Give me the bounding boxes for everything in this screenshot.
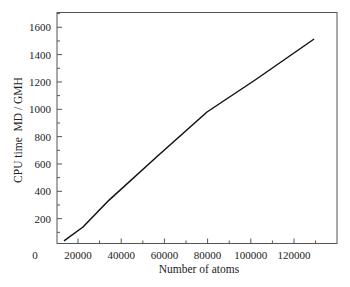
x-axis-tick-labels: 20000400006000080000100000120000 [64,249,311,261]
y-axis-tick-labels: 2004006008001000120014001600 [29,21,52,224]
y-tick-label: 1600 [29,21,52,33]
x-axis-title: Number of atoms [159,263,240,275]
cpu-time-series-line [64,39,314,241]
x-tick-label: 20000 [64,249,92,261]
y-tick-label: 1000 [29,103,52,115]
y-tick-label: 1400 [29,49,52,61]
x-tick-label: 100000 [234,249,268,261]
plot-frame [57,13,337,244]
y-tick-label: 400 [35,185,52,197]
x-origin-label: 0 [32,249,38,261]
x-axis-ticks [78,239,316,244]
y-tick-label: 600 [35,158,52,170]
x-tick-label: 120000 [278,249,312,261]
y-tick-label: 800 [35,131,52,143]
cpu-time-line-chart: 20000400006000080000100000120000 2004006… [0,0,350,287]
y-tick-label: 200 [35,213,52,225]
y-axis-title: CPU time MD / GMH [12,77,24,183]
x-tick-label: 40000 [107,249,135,261]
x-tick-label: 60000 [151,249,179,261]
y-axis-ticks [57,14,62,233]
x-tick-label: 80000 [194,249,222,261]
y-tick-label: 1200 [29,76,52,88]
